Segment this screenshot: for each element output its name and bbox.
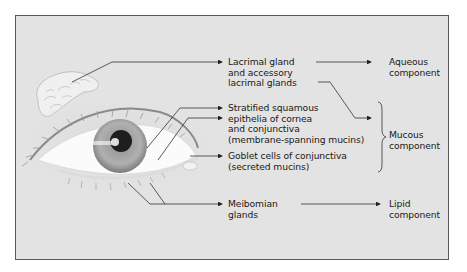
text-line: Goblet cells of conjunctiva xyxy=(228,151,347,162)
text-line: component xyxy=(389,141,440,152)
label-goblet-cells: Goblet cells of conjunctiva (secreted mu… xyxy=(228,151,347,172)
label-meibomian-glands: Meibomian glands xyxy=(228,199,278,220)
text-line: Mucous xyxy=(389,130,440,141)
text-line: component xyxy=(389,210,440,221)
text-line: Lipid xyxy=(389,199,440,210)
text-line: glands xyxy=(228,210,278,221)
text-line: (secreted mucins) xyxy=(228,162,347,173)
text-line: component xyxy=(389,68,440,79)
label-epithelia: Stratified squamous epithelia of cornea … xyxy=(228,103,364,145)
text-line: Aqueous xyxy=(389,57,440,68)
text-line: Meibomian xyxy=(228,199,278,210)
label-aqueous-component: Aqueous component xyxy=(389,57,440,78)
label-mucous-component: Mucous component xyxy=(389,130,440,151)
label-lipid-component: Lipid component xyxy=(389,199,440,220)
text-line: Lacrimal gland xyxy=(228,57,297,68)
label-lacrimal-glands: Lacrimal gland and accessory lacrimal gl… xyxy=(228,57,297,89)
text-line: (membrane-spanning mucins) xyxy=(228,135,364,146)
text-line: lacrimal glands xyxy=(228,78,297,89)
text-line: Stratified squamous xyxy=(228,103,364,114)
